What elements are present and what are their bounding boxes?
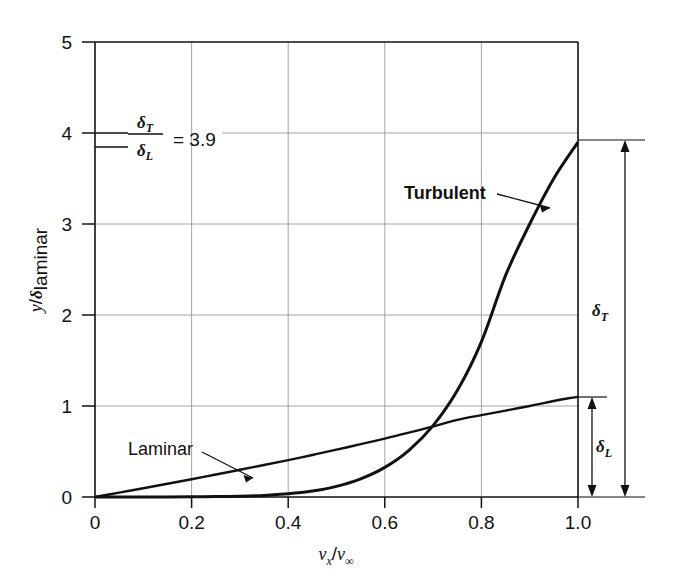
figure-background bbox=[0, 0, 674, 581]
x-tick-label-0.8: 0.8 bbox=[468, 512, 494, 533]
x-title-sub2: ∞ bbox=[345, 554, 354, 568]
y-title-sub: laminar bbox=[30, 227, 51, 290]
delta-L-subscript: L bbox=[604, 446, 612, 460]
y-title-y: y bbox=[26, 304, 46, 314]
x-title-v1: v bbox=[318, 544, 326, 564]
x-tick-label-1.0: 1.0 bbox=[565, 512, 591, 533]
ratio-equals-value: = 3.9 bbox=[173, 129, 216, 150]
y-tick-label-1: 1 bbox=[61, 396, 72, 417]
chart-svg: 0 1 2 3 4 5 0 0.2 0.4 0.6 0.8 1.0 vx/v∞ … bbox=[0, 0, 674, 581]
y-tick-label-5: 5 bbox=[61, 32, 72, 53]
ratio-numerator-symbol: δ bbox=[137, 113, 146, 132]
y-tick-label-4: 4 bbox=[61, 123, 72, 144]
ratio-numerator-subscript: T bbox=[146, 121, 154, 135]
x-title-v2: v bbox=[337, 544, 345, 564]
laminar-label: Laminar bbox=[128, 439, 193, 459]
x-tick-label-0: 0 bbox=[90, 512, 101, 533]
ratio-denominator-subscript: L bbox=[145, 149, 153, 163]
delta-L-symbol: δ bbox=[596, 437, 605, 456]
y-title-delta: δ bbox=[27, 290, 46, 299]
y-tick-label-0: 0 bbox=[61, 487, 72, 508]
y-tick-label-3: 3 bbox=[61, 214, 72, 235]
delta-T-subscript: T bbox=[601, 310, 609, 324]
x-tick-label-0.6: 0.6 bbox=[372, 512, 398, 533]
x-tick-label-0.4: 0.4 bbox=[275, 512, 302, 533]
turbulent-label: Turbulent bbox=[404, 183, 486, 203]
boundary-layer-velocity-profile-figure: 0 1 2 3 4 5 0 0.2 0.4 0.6 0.8 1.0 vx/v∞ … bbox=[0, 0, 674, 581]
x-tick-label-0.2: 0.2 bbox=[178, 512, 204, 533]
y-tick-label-2: 2 bbox=[61, 305, 72, 326]
delta-T-symbol: δ bbox=[592, 301, 601, 320]
ratio-denominator-symbol: δ bbox=[137, 141, 146, 160]
